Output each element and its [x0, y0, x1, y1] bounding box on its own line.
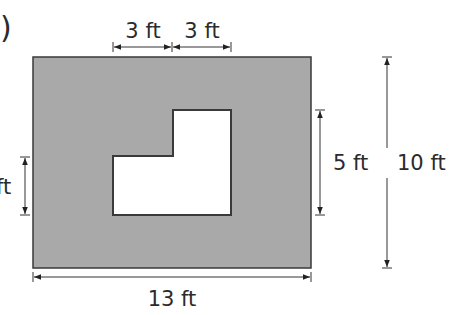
problem-label-fragment: ) [0, 10, 12, 45]
dimension-label-10ft: 10 ft [397, 151, 446, 175]
dimension-label-top-left: 3 ft [125, 19, 160, 43]
dimension-outer-height: 10 ft [381, 57, 446, 268]
dimension-label-top-right: 3 ft [184, 19, 219, 43]
dimension-top-right: 3 ft [172, 19, 231, 52]
dimension-left: ft [0, 157, 30, 215]
dimension-label-5ft: 5 ft [333, 151, 368, 175]
dimension-label-left: ft [0, 175, 11, 199]
composite-area-diagram: ) 3 ft 3 ft ft 5 f [0, 0, 459, 315]
dimension-outer-width: 13 ft [33, 272, 311, 311]
dimension-label-13ft: 13 ft [148, 287, 197, 311]
dimension-cutout-height: 5 ft [315, 110, 368, 215]
dimension-top-left: 3 ft [113, 19, 171, 52]
